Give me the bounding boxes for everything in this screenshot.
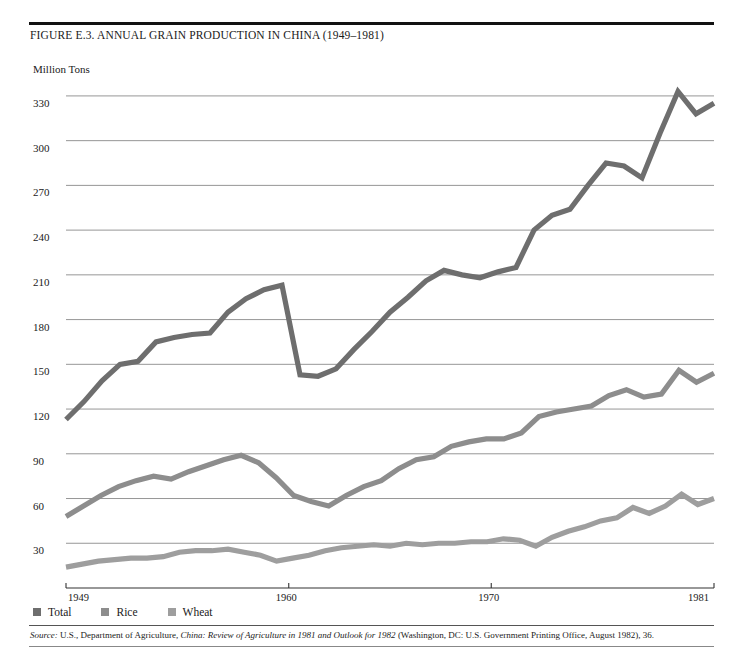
source-label: Source: <box>30 630 58 640</box>
legend-swatch-icon <box>101 608 109 616</box>
series-lines-group <box>66 91 714 567</box>
y-axis-tick-label: 180 <box>33 321 50 333</box>
chart-legend: TotalRiceWheat <box>33 604 243 620</box>
legend-swatch-icon <box>168 608 176 616</box>
y-axis-tick-label: 300 <box>33 142 50 154</box>
series-line-wheat <box>66 494 714 567</box>
y-axis-tick-label: 240 <box>33 231 50 243</box>
chart-svg <box>0 0 743 650</box>
legend-item-rice[interactable]: Rice <box>101 606 137 618</box>
legend-label: Wheat <box>183 606 213 618</box>
x-axis-tick-label: 1960 <box>276 592 297 603</box>
y-axis-tick-label: 210 <box>33 276 50 288</box>
source-title: China: Review of Agriculture in 1981 and… <box>180 630 395 640</box>
source-bottom-rule <box>29 646 714 647</box>
x-axis-tick-label: 1981 <box>688 592 709 603</box>
source-top-rule <box>29 625 714 626</box>
series-line-rice <box>66 370 714 516</box>
figure-root: FIGURE E.3. ANNUAL GRAIN PRODUCTION IN C… <box>0 0 743 650</box>
legend-swatch-icon <box>33 608 41 616</box>
x-axis-tick-label: 1970 <box>478 592 499 603</box>
y-axis-tick-label: 330 <box>33 97 50 109</box>
legend-item-total[interactable]: Total <box>33 606 71 618</box>
y-axis-tick-label: 270 <box>33 186 50 198</box>
legend-item-wheat[interactable]: Wheat <box>168 606 213 618</box>
y-axis-tick-label: 150 <box>33 365 50 377</box>
source-text-2: (Washington, DC: U.S. Government Printin… <box>396 630 654 640</box>
y-axis-tick-label: 30 <box>33 544 44 556</box>
source-text-1: U.S., Department of Agriculture, <box>58 630 181 640</box>
y-axis-tick-label: 90 <box>33 455 44 467</box>
plot-area <box>0 0 743 650</box>
y-axis-tick-label: 60 <box>33 500 44 512</box>
legend-label: Total <box>48 606 71 618</box>
source-note: Source: U.S., Department of Agriculture,… <box>30 630 654 640</box>
legend-label: Rice <box>116 606 137 618</box>
axes-group <box>66 583 714 588</box>
x-axis-tick-label: 1949 <box>68 592 89 603</box>
y-axis-tick-label: 120 <box>33 410 50 422</box>
